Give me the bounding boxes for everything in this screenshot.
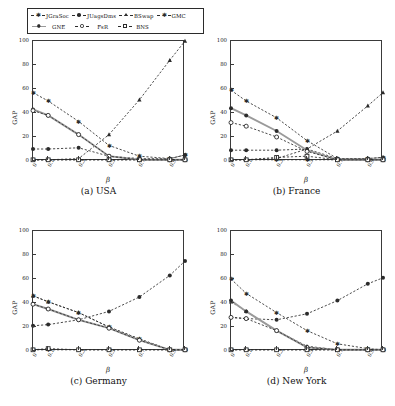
x-tick-mark <box>138 346 139 350</box>
legend-entry-fsr: FsR <box>75 23 108 30</box>
y-tick-label: 80 <box>6 61 29 67</box>
y-axis-label: GAP <box>209 293 216 323</box>
series-layer-new-york: ✱✱✱✱✱✱✱✱✱✱✱✱✱✱ <box>231 231 383 351</box>
panel-usa: GAP ✱✱✱✱✱✱✱✱✱✱✱✱✱✱ 020406080100 00.10.30… <box>0 34 197 204</box>
y-tick-label: 100 <box>204 37 227 43</box>
svg-text:✱: ✱ <box>274 114 279 121</box>
y-tick-label: 0 <box>204 157 227 163</box>
y-tick-mark <box>32 254 36 255</box>
y-tick-label: 40 <box>6 109 29 115</box>
svg-text:✱: ✱ <box>46 97 51 104</box>
y-tick-mark <box>230 112 234 113</box>
plot-area-new-york: ✱✱✱✱✱✱✱✱✱✱✱✱✱✱ <box>230 230 382 350</box>
plot-area-france: ✱✱✱✱✱✱✱✱✱✱✱✱✱✱ <box>230 40 382 160</box>
y-tick-label: 40 <box>204 299 227 305</box>
x-tick-mark <box>138 156 139 160</box>
legend-entry-bswap: BSwap <box>119 12 153 19</box>
y-tick-mark <box>32 88 36 89</box>
y-tick-mark <box>32 160 36 161</box>
y-tick-mark <box>32 40 36 41</box>
x-tick-mark <box>306 156 307 160</box>
x-tick-mark <box>169 346 170 350</box>
y-tick-label: 80 <box>204 251 227 257</box>
y-tick-label: 100 <box>204 227 227 233</box>
x-tick-mark <box>230 156 231 160</box>
series-layer-germany: ✱✱✱✱✱✱✱✱✱✱✱✱✱✱ <box>33 231 185 351</box>
y-tick-label: 20 <box>204 133 227 139</box>
x-tick-mark <box>276 346 277 350</box>
y-tick-label: 20 <box>6 323 29 329</box>
x-axis-label: β <box>230 176 382 184</box>
y-tick-mark <box>230 302 234 303</box>
y-tick-label: 100 <box>6 37 29 43</box>
y-axis-label: GAP <box>209 103 216 133</box>
y-tick-mark <box>32 326 36 327</box>
y-tick-label: 80 <box>6 251 29 257</box>
svg-text:✱: ✱ <box>107 142 112 149</box>
svg-text:✱: ✱ <box>305 327 310 334</box>
y-tick-label: 80 <box>204 61 227 67</box>
x-tick-mark <box>47 156 48 160</box>
legend-label: JUagsDms <box>87 13 116 19</box>
series-line <box>33 261 185 326</box>
dot-marker-icon <box>32 23 46 30</box>
x-tick-label: 0 <box>229 352 236 358</box>
x-axis-label: β <box>230 366 382 374</box>
x-tick-mark <box>32 346 33 350</box>
series-layer-france: ✱✱✱✱✱✱✱✱✱✱✱✱✱✱ <box>231 41 383 161</box>
svg-text:✱: ✱ <box>244 97 249 104</box>
series-line <box>231 302 383 350</box>
x-tick-mark <box>108 156 109 160</box>
y-tick-mark <box>230 350 234 351</box>
y-tick-mark <box>230 64 234 65</box>
y-tick-mark <box>32 302 36 303</box>
y-axis-label: GAP <box>11 293 18 323</box>
legend-entry-juagsdms: JUagsDms <box>72 12 116 19</box>
series-line <box>231 301 383 350</box>
y-tick-mark <box>230 88 234 89</box>
y-tick-mark <box>32 278 36 279</box>
y-axis-label: GAP <box>11 103 18 133</box>
legend-row-2: GNE FsR BNS <box>31 21 201 32</box>
x-tick-mark <box>367 346 368 350</box>
x-tick-mark <box>230 346 231 350</box>
svg-text:✱: ✱ <box>76 118 81 125</box>
legend-entry-bns: BNS <box>118 23 149 30</box>
legend-entry-jgrasoc: ✱ JGraSoc <box>31 12 69 19</box>
x-axis-label: β <box>32 366 184 374</box>
y-tick-label: 60 <box>204 275 227 281</box>
star-marker-icon: ✱ <box>157 12 171 19</box>
y-tick-label: 0 <box>6 347 29 353</box>
panel-caption-usa: (a) USA <box>0 186 197 196</box>
series-layer-usa: ✱✱✱✱✱✱✱✱✱✱✱✱✱✱ <box>33 41 185 161</box>
x-tick-mark <box>367 156 368 160</box>
y-tick-mark <box>230 136 234 137</box>
x-tick-label: 0 <box>229 162 236 168</box>
svg-text:✱: ✱ <box>274 309 279 316</box>
x-tick-mark <box>78 346 79 350</box>
x-tick-mark <box>336 156 337 160</box>
y-tick-mark <box>230 326 234 327</box>
x-tick-mark <box>47 346 48 350</box>
y-tick-label: 60 <box>6 85 29 91</box>
star-marker-icon: ✱ <box>31 12 45 19</box>
x-tick-mark <box>169 156 170 160</box>
svg-text:✱: ✱ <box>244 290 249 297</box>
x-tick-mark <box>78 156 79 160</box>
x-tick-mark <box>184 156 185 160</box>
panel-caption-france: (b) France <box>198 186 395 196</box>
dot-marker-icon <box>72 12 86 19</box>
panel-caption-germany: (c) Germany <box>0 376 197 386</box>
y-tick-label: 0 <box>6 157 29 163</box>
x-tick-mark <box>245 156 246 160</box>
panel-france: GAP ✱✱✱✱✱✱✱✱✱✱✱✱✱✱ 020406080100 00.10.30… <box>198 34 395 204</box>
plot-area-usa: ✱✱✱✱✱✱✱✱✱✱✱✱✱✱ <box>32 40 184 160</box>
panel-germany: GAP ✱✱✱✱✱✱✱✱✱✱✱✱✱✱ 020406080100 00.10.30… <box>0 224 197 399</box>
square-marker-icon <box>118 23 132 30</box>
legend-label: GNE <box>52 24 65 30</box>
y-tick-mark <box>32 350 36 351</box>
y-tick-label: 40 <box>6 299 29 305</box>
legend-label: FsR <box>97 24 108 30</box>
y-tick-label: 0 <box>204 347 227 353</box>
y-tick-mark <box>32 136 36 137</box>
